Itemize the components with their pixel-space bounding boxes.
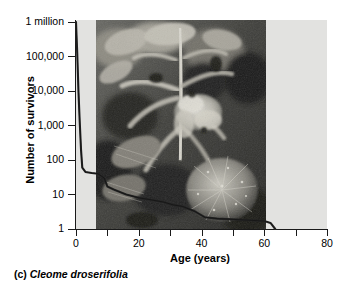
x-tick-0 xyxy=(76,230,77,236)
y-tick-1000000 xyxy=(68,22,75,23)
x-tick-label-20: 20 xyxy=(119,238,159,249)
y-tick-100000 xyxy=(68,56,75,57)
x-tick-label-0: 0 xyxy=(56,238,96,249)
figure-caption: (c) Cleome droserifolia xyxy=(14,268,128,280)
x-tick-10 xyxy=(107,230,108,236)
y-axis-title: Number of survivors xyxy=(24,55,36,205)
y-tick-label-1000: 1,000 xyxy=(38,120,64,130)
survivorship-figure: 1 million 100,000 10,000 1,000 100 10 1 … xyxy=(0,0,349,289)
x-tick-80 xyxy=(327,230,328,236)
y-tick-label-10: 10 xyxy=(52,189,64,199)
x-tick-label-40: 40 xyxy=(182,238,222,249)
plant-photograph xyxy=(96,20,266,229)
caption-species: Cleome droserifolia xyxy=(30,268,128,280)
x-tick-label-80: 80 xyxy=(307,238,347,249)
y-tick-label-10000: 10,000 xyxy=(32,85,64,95)
y-tick-100 xyxy=(68,160,75,161)
x-axis-title: Age (years) xyxy=(120,252,280,264)
x-tick-30 xyxy=(170,230,171,236)
y-tick-label-100: 100 xyxy=(46,154,64,164)
x-tick-50 xyxy=(233,230,234,236)
x-tick-20 xyxy=(139,230,140,236)
y-tick-10 xyxy=(68,194,75,195)
x-tick-70 xyxy=(296,230,297,236)
y-tick-label-1: 1 xyxy=(58,223,64,233)
x-tick-label-60: 60 xyxy=(244,238,284,249)
y-axis-line xyxy=(75,20,76,230)
y-tick-1 xyxy=(68,229,75,230)
x-tick-40 xyxy=(202,230,203,236)
caption-index: (c) xyxy=(14,268,27,280)
y-tick-10000 xyxy=(68,91,75,92)
y-tick-1000 xyxy=(68,125,75,126)
x-tick-60 xyxy=(264,230,265,236)
y-tick-label-1000000: 1 million xyxy=(25,16,64,26)
